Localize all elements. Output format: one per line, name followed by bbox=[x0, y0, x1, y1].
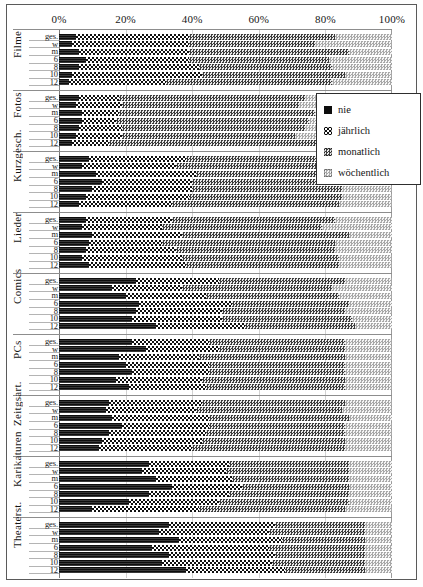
bar-segment-monatlich bbox=[232, 301, 349, 307]
stacked-bar bbox=[59, 415, 392, 421]
bar-segment-nie bbox=[59, 255, 82, 261]
stacked-bar bbox=[59, 529, 392, 535]
bar-segment-jaehrlich bbox=[72, 140, 109, 146]
category-label-comics: Comics bbox=[11, 273, 27, 304]
bar-segment-monatlich bbox=[189, 34, 336, 40]
bar-segment-nie bbox=[59, 133, 76, 139]
bar-segment-jaehrlich bbox=[82, 110, 119, 116]
bar-segment-monatlich bbox=[229, 491, 349, 497]
category-separator bbox=[13, 517, 392, 518]
bar-segment-monatlich bbox=[172, 217, 335, 223]
stacked-bar bbox=[59, 377, 392, 383]
bar-segment-monatlich bbox=[196, 407, 343, 413]
bar-segment-monatlich bbox=[242, 484, 349, 490]
category-label-karikaturen: Karikaturen bbox=[11, 456, 27, 487]
bar-segment-jaehrlich bbox=[119, 354, 199, 360]
bar-segment-monatlich bbox=[275, 552, 365, 558]
bar-segment-jaehrlich bbox=[109, 400, 202, 406]
bar-segment-monatlich bbox=[182, 285, 332, 291]
stacked-bar bbox=[59, 407, 392, 413]
bar-segment-jaehrlich bbox=[156, 323, 246, 329]
bar-segment-woechentlich bbox=[349, 415, 392, 421]
subgroup-label-12: 12 bbox=[16, 323, 58, 330]
bar-segment-monatlich bbox=[275, 522, 365, 528]
stacked-bar bbox=[59, 217, 392, 223]
bar-segment-woechentlich bbox=[349, 49, 392, 55]
bar-segment-nie bbox=[59, 247, 86, 253]
bar-segment-nie bbox=[59, 560, 162, 566]
bar-segment-nie bbox=[59, 506, 92, 512]
bar-segment-jaehrlich bbox=[132, 339, 209, 345]
category-separator bbox=[13, 334, 392, 335]
category-label-zeitgsart: Zeitgsart. bbox=[11, 395, 27, 426]
stacked-bar bbox=[59, 301, 392, 307]
bar-segment-monatlich bbox=[189, 49, 349, 55]
bar-segment-nie bbox=[59, 354, 119, 360]
bar-segment-woechentlich bbox=[345, 445, 392, 451]
bar-segment-monatlich bbox=[122, 102, 298, 108]
stacked-bar bbox=[59, 285, 392, 291]
legend-item-jaehrlich[interactable]: jährlich bbox=[324, 120, 420, 141]
stacked-bar bbox=[59, 552, 392, 558]
bar-segment-jaehrlich bbox=[112, 285, 182, 291]
bar-segment-monatlich bbox=[199, 64, 332, 70]
legend-swatch-jaehrlich-icon bbox=[324, 127, 332, 135]
stacked-bar bbox=[59, 560, 392, 566]
subgroup-label-12: 12 bbox=[16, 567, 58, 574]
bar-segment-woechentlich bbox=[329, 57, 392, 63]
stacked-bar bbox=[59, 400, 392, 406]
bar-segment-woechentlich bbox=[365, 552, 392, 558]
bar-segment-woechentlich bbox=[345, 278, 392, 284]
bar-segment-woechentlich bbox=[345, 354, 392, 360]
stacked-bar bbox=[59, 41, 392, 47]
bar-segment-monatlich bbox=[245, 323, 355, 329]
bar-segment-jaehrlich bbox=[112, 415, 209, 421]
bar-segment-nie bbox=[59, 64, 79, 70]
bar-segment-jaehrlich bbox=[86, 217, 173, 223]
stacked-bar bbox=[59, 484, 392, 490]
stacked-bar bbox=[59, 476, 392, 482]
stacked-bar bbox=[59, 72, 392, 78]
bar-segment-nie bbox=[59, 262, 89, 268]
stacked-bar bbox=[59, 49, 392, 55]
bar-segment-monatlich bbox=[232, 476, 349, 482]
category-separator bbox=[13, 29, 392, 30]
bar-segment-jaehrlich bbox=[82, 118, 115, 124]
bar-segment-woechentlich bbox=[332, 79, 392, 85]
bar-segment-woechentlich bbox=[365, 537, 392, 543]
bar-segment-woechentlich bbox=[345, 400, 392, 406]
legend-swatch-woechentlich-icon bbox=[324, 169, 332, 177]
bar-segment-jaehrlich bbox=[79, 95, 119, 101]
legend-item-monatlich[interactable]: monatlich bbox=[324, 141, 420, 162]
legend-item-nie[interactable]: nie bbox=[324, 99, 420, 120]
stacked-bar bbox=[59, 545, 392, 551]
bar-segment-woechentlich bbox=[332, 64, 392, 70]
stacked-bar bbox=[59, 339, 392, 345]
bar-segment-monatlich bbox=[189, 41, 316, 47]
bar-segment-woechentlich bbox=[352, 316, 392, 322]
bar-segment-woechentlich bbox=[345, 438, 392, 444]
bar-segment-monatlich bbox=[162, 224, 322, 230]
bar-segment-monatlich bbox=[186, 262, 339, 268]
category-label-fotos: Fotos bbox=[11, 90, 27, 121]
stacked-bar bbox=[59, 247, 392, 253]
bar-segment-nie bbox=[59, 491, 149, 497]
legend: niejährlichmonatlichwöchentlich bbox=[316, 93, 421, 185]
legend-label: wöchentlich bbox=[338, 167, 389, 178]
bar-segment-jaehrlich bbox=[99, 445, 192, 451]
bar-segment-jaehrlich bbox=[129, 499, 219, 505]
legend-item-woechentlich[interactable]: wöchentlich bbox=[324, 162, 420, 183]
bar-segment-jaehrlich bbox=[126, 362, 209, 368]
bar-segment-woechentlich bbox=[315, 41, 392, 47]
category-group: ges.wm681012 bbox=[59, 395, 392, 456]
stacked-bar bbox=[59, 194, 392, 200]
bar-segment-jaehrlich bbox=[179, 537, 282, 543]
x-axis-tick-60: 60% bbox=[248, 13, 269, 25]
bar-segment-monatlich bbox=[199, 506, 346, 512]
bar-segment-woechentlich bbox=[345, 339, 392, 345]
stacked-bar bbox=[59, 262, 392, 268]
category-label-pcs: PCs bbox=[11, 334, 27, 365]
bar-segment-nie bbox=[59, 438, 102, 444]
bar-segment-woechentlich bbox=[345, 384, 392, 390]
bar-segment-nie bbox=[59, 323, 156, 329]
